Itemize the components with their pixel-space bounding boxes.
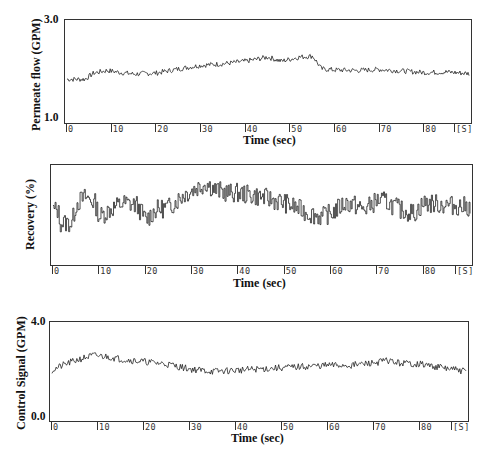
x-tick-label: 60 [334, 124, 347, 134]
control-signal-plot [49, 321, 469, 422]
recovery-line [51, 165, 472, 265]
permeate-flow-y-axis-label: Permeate flow (GPM) [29, 18, 44, 131]
x-tick-label: 30 [191, 266, 204, 276]
x-tick-label: 80 [419, 422, 432, 432]
control-signal-line [50, 322, 468, 421]
x-tick-label: 80 [423, 124, 436, 134]
x-tick-label: 10 [111, 124, 124, 134]
permeate-flow-plot [64, 19, 472, 124]
x-tick-label: 10 [98, 266, 111, 276]
x-tick-label: 30 [200, 124, 213, 134]
x-tick-label: 50 [284, 266, 297, 276]
x-tick-label: 0 [52, 266, 60, 276]
x-tick-label: 10 [97, 422, 110, 432]
recovery-y-axis-label: Recovery (%) [23, 179, 38, 250]
x-tick-label: 20 [143, 422, 156, 432]
x-tick-label: 20 [145, 266, 158, 276]
permeate-flow-line [65, 20, 471, 123]
control-signal-y-axis-label: Control Signal (GPM) [14, 316, 29, 430]
series-line [67, 54, 469, 81]
permeate-flow-y-min: 1.0 [44, 111, 58, 123]
control-signal-x-axis-label: Time (sec) [231, 431, 284, 446]
permeate-flow-x-axis-label: Time (sec) [243, 133, 296, 148]
x-tick-label: 70 [376, 266, 389, 276]
x-tick-label: 30 [189, 422, 202, 432]
x-tick-label: 0 [66, 124, 74, 134]
control-signal-y-min: 0.0 [31, 410, 45, 422]
x-tick-label: 80 [423, 266, 436, 276]
x-tick-label: [S] [451, 422, 470, 432]
x-tick-label: [S] [454, 124, 473, 134]
series-line [53, 182, 470, 232]
x-tick-label: 70 [379, 124, 392, 134]
x-tick-label: 60 [330, 266, 343, 276]
x-tick-label: 60 [327, 422, 340, 432]
x-tick-label: [S] [455, 266, 474, 276]
x-tick-label: 0 [51, 422, 59, 432]
x-tick-label: 20 [155, 124, 168, 134]
x-tick-label: 70 [373, 422, 386, 432]
x-tick-label: 40 [237, 266, 250, 276]
permeate-flow-y-max: 3.0 [44, 13, 58, 25]
series-line [52, 353, 466, 375]
recovery-x-axis-label: Time (sec) [233, 276, 286, 291]
control-signal-y-max: 4.0 [31, 315, 45, 327]
recovery-plot [50, 164, 473, 266]
